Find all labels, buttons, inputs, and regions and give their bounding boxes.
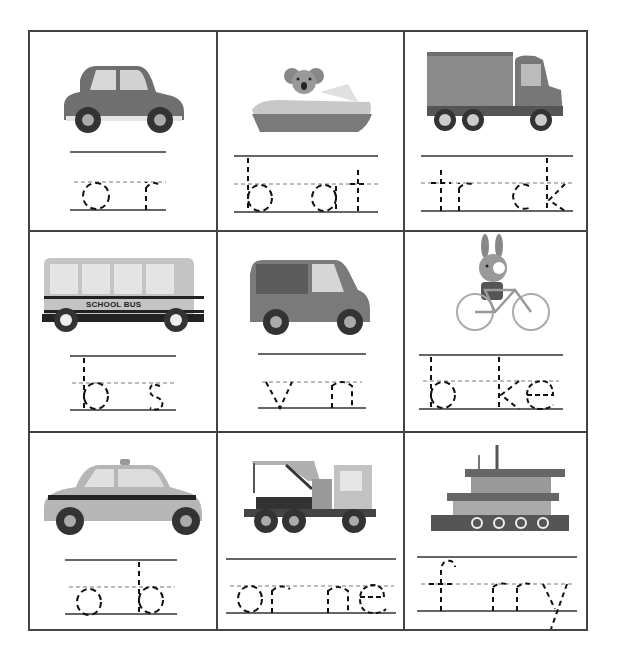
bus-label: SCHOOL BUS bbox=[86, 300, 141, 309]
tracing-lines bbox=[234, 156, 384, 218]
car-icon bbox=[60, 62, 186, 134]
ferry-icon bbox=[427, 441, 573, 537]
crane-truck-icon bbox=[242, 457, 380, 537]
cell-word: ferry bbox=[405, 433, 406, 434]
tracing-lines bbox=[417, 557, 577, 639]
tracing-lines bbox=[226, 559, 398, 617]
cell-boat: boat bbox=[218, 32, 403, 230]
cell-word: car bbox=[30, 32, 31, 33]
tracing-lines bbox=[70, 356, 180, 416]
truck-icon bbox=[425, 50, 567, 134]
tracing-lines bbox=[258, 354, 368, 412]
van-icon bbox=[246, 260, 372, 336]
cell-car: car bbox=[30, 32, 216, 230]
cell-word: crane bbox=[218, 433, 219, 434]
cell-word: bike bbox=[405, 232, 406, 233]
bike-icon bbox=[455, 236, 551, 334]
tracing-lines bbox=[421, 156, 576, 218]
taxi-icon bbox=[40, 459, 206, 537]
cell-bike: bike bbox=[405, 232, 590, 431]
cell-word: boat bbox=[218, 32, 219, 33]
boat-icon bbox=[248, 62, 378, 136]
worksheet-grid: car boat bbox=[28, 30, 588, 631]
cell-ferry: ferry bbox=[405, 433, 590, 633]
cell-bus: bus SCHOOL BUS bbox=[30, 232, 216, 431]
tracing-lines bbox=[70, 152, 170, 218]
cell-truck: truck bbox=[405, 32, 590, 230]
cell-van: van bbox=[218, 232, 403, 431]
cell-word: cab bbox=[30, 433, 31, 434]
school-bus-icon: SCHOOL BUS bbox=[40, 254, 206, 336]
tracing-lines bbox=[419, 355, 569, 413]
cell-crane: crane bbox=[218, 433, 403, 633]
cell-cab: cab bbox=[30, 433, 216, 633]
cell-word: truck bbox=[405, 32, 406, 33]
tracing-lines bbox=[65, 560, 185, 618]
cell-word: van bbox=[218, 232, 219, 233]
cell-word: bus bbox=[30, 232, 31, 233]
